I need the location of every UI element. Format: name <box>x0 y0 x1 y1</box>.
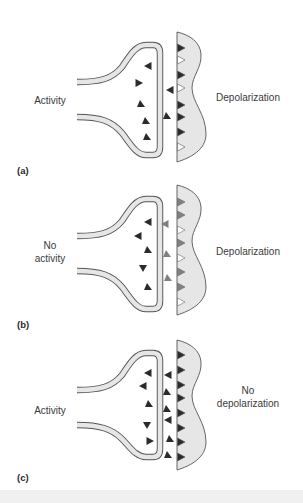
postsynaptic-cell <box>177 185 206 315</box>
cleft-transmitters <box>163 371 174 458</box>
vesicles <box>136 62 152 140</box>
presynaptic-label-b-2: activity <box>35 253 66 264</box>
postsynaptic-label-a: Depolarization <box>216 92 280 103</box>
panel-c <box>77 340 206 470</box>
presynaptic-label-b: No <box>44 240 57 251</box>
postsynaptic-label-c: No <box>242 385 255 396</box>
postsynaptic-cell <box>177 340 206 470</box>
presynaptic-label-c: Activity <box>34 405 66 416</box>
synapse-figure: Activity Depolarization (a) <box>0 0 303 503</box>
vesicles <box>139 369 154 445</box>
panel-label-a: (a) <box>17 165 29 176</box>
presynaptic-terminal <box>77 199 160 309</box>
panel-label-b: (b) <box>17 319 29 330</box>
postsynaptic-label-c-2: depolarization <box>217 398 279 409</box>
cleft-transmitters <box>163 86 174 119</box>
postsynaptic-label-b: Depolarization <box>216 246 280 257</box>
vesicles <box>134 218 152 290</box>
panel-a <box>77 32 206 162</box>
presynaptic-label-a: Activity <box>34 95 66 106</box>
postsynaptic-cell <box>177 32 206 162</box>
bottom-band <box>0 490 303 503</box>
panel-b <box>77 185 206 315</box>
panel-label-c: (c) <box>17 472 29 483</box>
